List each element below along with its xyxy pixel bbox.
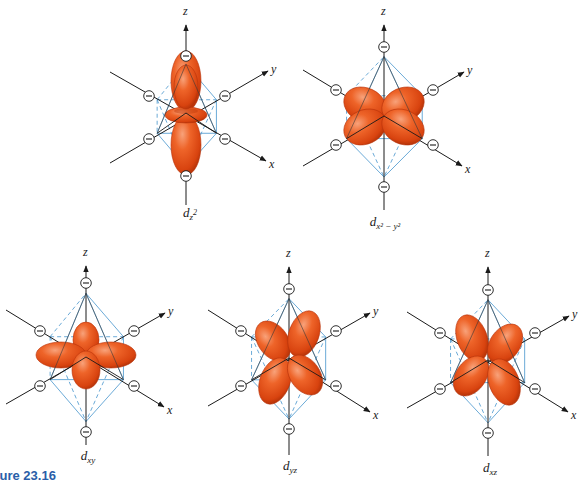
ligand-upper-left-icon [435, 328, 446, 339]
ligand-top-icon [379, 42, 390, 53]
ligand-lower-left-icon [236, 381, 247, 392]
ligand-upper-left-icon [331, 85, 342, 96]
ligand-top-icon [181, 51, 192, 62]
figure-caption: Figure 23.16 [0, 468, 56, 483]
z-axis-label: z [285, 246, 291, 260]
y-axis-label: y [270, 62, 277, 76]
z-axis-label: z [484, 246, 490, 260]
ligand-lower-left-icon [331, 140, 342, 151]
ligand-lower-right-icon [129, 381, 140, 392]
ligand-upper-left-icon [144, 91, 155, 102]
x-axis-label: x [372, 408, 379, 422]
panel-dz2-orbital: zyx [110, 4, 277, 205]
ligand-bottom-icon [284, 424, 295, 435]
ligand-top-icon [81, 278, 92, 289]
ligand-lower-right-icon [220, 134, 231, 145]
ligand-upper-left-icon [35, 326, 46, 337]
orbital-label-dxy: dxy [81, 448, 96, 465]
lobe-front [72, 351, 100, 389]
z-axis-label: z [182, 4, 188, 18]
y-axis-label: y [167, 304, 174, 318]
ligand-lower-left-icon [144, 134, 155, 145]
orbital-label-dxz: dxz [483, 460, 497, 477]
panel-dxz-orbital: zyx [407, 246, 578, 456]
panel-dyz-orbital: zyx [208, 246, 379, 455]
ligand-upper-right-icon [428, 85, 439, 96]
ligand-top-icon [483, 285, 494, 296]
ligand-lower-right-icon [331, 381, 342, 392]
orbital-label-dyz: dyz [283, 458, 297, 475]
ligand-bottom-icon [483, 428, 494, 439]
ligand-lower-right-icon [530, 384, 541, 395]
y-axis-label: y [571, 307, 578, 321]
d-orbital-diagram: zyx zyx zyx zyx zyx [0, 0, 584, 486]
y-axis-label: y [372, 304, 379, 318]
x-axis-label: x [464, 162, 471, 176]
z-axis-label: z [380, 4, 386, 18]
ligand-upper-left-icon [236, 326, 247, 337]
ligand-lower-right-icon [428, 140, 439, 151]
x-axis-label: x [570, 408, 577, 422]
y-axis-label: y [466, 63, 473, 77]
ligand-upper-right-icon [530, 328, 541, 339]
z-axis-label: z [82, 245, 88, 259]
ligand-upper-right-icon [331, 326, 342, 337]
ligand-upper-right-icon [129, 326, 140, 337]
panel-dx2-y2-orbital: zyx [303, 4, 473, 210]
x-axis-label: x [166, 403, 173, 417]
ligand-top-icon [284, 284, 295, 295]
orbital-label-dz2: dz2 [183, 205, 197, 222]
orbital-label-dx2-y2: dx² − y² [370, 214, 400, 231]
x-axis-label: x [268, 157, 275, 171]
lobe-z-positive-front [174, 65, 198, 109]
ligand-lower-left-icon [35, 381, 46, 392]
ligand-bottom-icon [81, 427, 92, 438]
ligand-lower-left-icon [435, 384, 446, 395]
ligand-upper-right-icon [220, 91, 231, 102]
ligand-bottom-icon [379, 182, 390, 193]
lobe-z-negative [171, 115, 201, 175]
ligand-bottom-icon [181, 171, 192, 182]
panel-dxy-orbital: zyx [6, 245, 174, 445]
